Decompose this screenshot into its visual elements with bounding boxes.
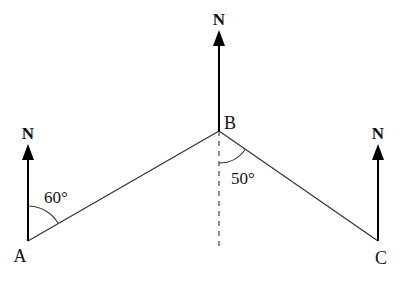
north-label-c: N	[372, 124, 385, 143]
arrowhead-icon	[22, 144, 34, 160]
angle-label-b: 50°	[231, 169, 255, 188]
north-label-b: N	[213, 10, 226, 29]
bearing-diagram: N N N A B C 60° 50°	[0, 0, 415, 297]
segment-ab	[28, 131, 219, 241]
north-arrow-c	[372, 144, 384, 241]
point-label-a: A	[14, 246, 27, 266]
arrowhead-icon	[213, 30, 225, 46]
north-arrow-a	[22, 144, 34, 241]
angle-label-a: 60°	[44, 188, 68, 207]
angle-arc-a	[28, 206, 58, 224]
point-label-c: C	[375, 248, 387, 268]
point-label-b: B	[224, 113, 236, 133]
angle-arc-b	[219, 149, 245, 163]
north-label-a: N	[22, 124, 35, 143]
arrowhead-icon	[372, 144, 384, 160]
